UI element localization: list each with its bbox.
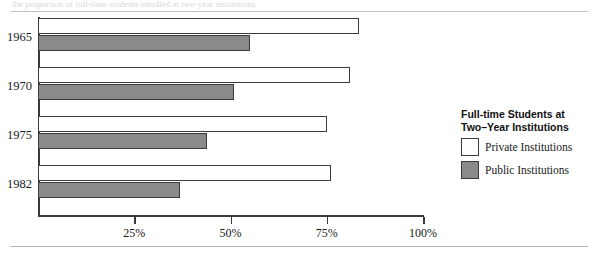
bar-public-1975 [38, 133, 207, 149]
bar-group: 1982 [38, 165, 423, 199]
x-axis-tick [231, 217, 233, 224]
bar-group: 1965 [38, 18, 423, 52]
top-rule [10, 11, 588, 12]
bar-private-1965 [38, 18, 359, 34]
y-axis-category-label: 1982 [7, 178, 32, 191]
legend-title-line-1: Full-time Students at [461, 108, 589, 121]
x-axis-tick-label: 50% [220, 227, 242, 239]
bar-private-1975 [38, 116, 327, 132]
x-axis-tick-label: 25% [123, 227, 145, 239]
legend-title-line-2: Two–Year Institutions [461, 121, 589, 134]
bar-private-1970 [38, 67, 350, 83]
bar-public-1970 [38, 84, 234, 100]
bar-group: 1975 [38, 116, 423, 150]
legend: Full-time Students at Two–Year Instituti… [461, 108, 589, 184]
x-axis-tick [134, 217, 136, 224]
bar-public-1965 [38, 35, 250, 51]
legend-label-public: Public Institutions [485, 164, 569, 176]
y-axis-category-label: 1970 [7, 80, 32, 93]
legend-swatch-public [461, 161, 479, 179]
legend-item-public: Public Institutions [461, 161, 589, 179]
legend-item-private: Private Institutions [461, 138, 589, 156]
y-axis-category-label: 1975 [7, 129, 32, 142]
figure-bar-chart: the proportion of full-time students enr… [0, 0, 592, 255]
x-axis-tick-label: 100% [409, 227, 437, 239]
legend-label-private: Private Institutions [485, 141, 572, 153]
x-axis-tick [327, 217, 329, 224]
bar-private-1982 [38, 165, 331, 181]
legend-entries: Private InstitutionsPublic Institutions [461, 138, 589, 179]
plot-area: 1965197019751982 [38, 18, 423, 216]
bar-group: 1970 [38, 67, 423, 101]
y-axis-category-label: 1965 [7, 31, 32, 44]
cropped-caption-text: the proportion of full-time students enr… [12, 0, 572, 9]
legend-swatch-private [461, 138, 479, 156]
bottom-rule [10, 246, 588, 247]
x-axis-tick [423, 217, 425, 224]
x-axis-tick-label: 75% [316, 227, 338, 239]
bar-public-1982 [38, 182, 180, 198]
